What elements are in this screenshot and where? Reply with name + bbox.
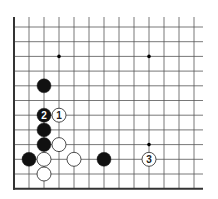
- move-number-label: 2: [41, 110, 47, 121]
- black-stone[interactable]: [37, 138, 51, 152]
- black-stone[interactable]: [37, 123, 51, 137]
- white-stone[interactable]: [37, 152, 51, 166]
- black-stone[interactable]: [22, 152, 36, 166]
- star-point: [147, 55, 151, 59]
- black-stone[interactable]: [37, 79, 51, 93]
- star-point: [57, 55, 61, 59]
- move-number-label: 3: [146, 154, 152, 165]
- white-stone[interactable]: [52, 138, 66, 152]
- white-stone[interactable]: [37, 167, 51, 181]
- move-number-label: 1: [56, 110, 62, 121]
- go-board: 213: [0, 0, 218, 199]
- black-stone[interactable]: [97, 152, 111, 166]
- white-stone[interactable]: [67, 152, 81, 166]
- star-point: [147, 143, 151, 147]
